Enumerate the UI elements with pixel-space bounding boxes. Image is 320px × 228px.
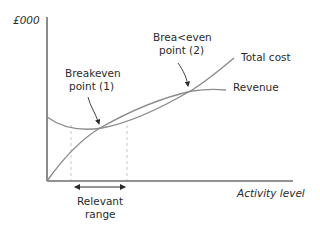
relevant-range-label-line2: range [85,208,116,220]
bep1-pointer-arrow [88,97,99,124]
breakeven-chart: £000 Activity level Total cost Revenue B… [0,0,320,228]
x-axis-label: Activity level [236,187,305,199]
revenue-curve [47,89,226,181]
bep2-pointer-arrow [178,63,188,86]
relevant-range-label-line1: Relevant [77,195,123,207]
bep2-label-line2: point (2) [159,44,204,56]
total-cost-label: Total cost [240,51,291,63]
revenue-label: Revenue [233,81,279,93]
bep2-label-line1: Brea<even [153,31,212,43]
bep1-label-line1: Breakeven [65,67,121,79]
y-axis-label: £000 [13,14,40,26]
bep1-label-line2: point (1) [69,80,114,92]
